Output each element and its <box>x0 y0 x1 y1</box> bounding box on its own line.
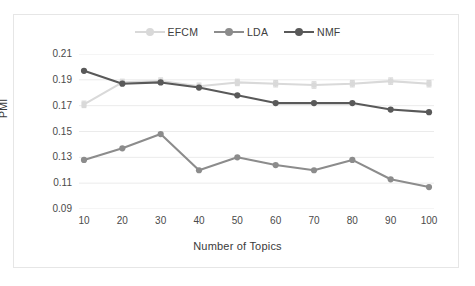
data-point-efcm[interactable] <box>388 79 393 84</box>
data-point-efcm[interactable] <box>81 102 86 107</box>
x-tick-label: 80 <box>337 216 367 226</box>
x-axis-title: Number of Topics <box>0 240 475 252</box>
x-tick-label: 30 <box>146 216 176 226</box>
data-point-lda[interactable] <box>234 154 240 160</box>
y-axis-title: PMI <box>0 98 9 118</box>
x-tick-label: 10 <box>69 216 99 226</box>
y-tick-label: 0.19 <box>38 75 72 85</box>
data-point-lda[interactable] <box>311 167 317 173</box>
series-line-lda <box>84 134 429 187</box>
y-tick-label: 0.11 <box>38 178 72 188</box>
x-tick-label: 100 <box>414 216 444 226</box>
data-point-nmf[interactable] <box>426 109 432 115</box>
data-point-nmf[interactable] <box>158 79 164 85</box>
x-tick-label: 40 <box>184 216 214 226</box>
x-tick-label: 20 <box>107 216 137 226</box>
data-point-nmf[interactable] <box>196 84 202 90</box>
data-point-nmf[interactable] <box>234 92 240 98</box>
y-tick-label: 0.15 <box>38 127 72 137</box>
data-point-nmf[interactable] <box>349 100 355 106</box>
data-point-lda[interactable] <box>81 157 87 163</box>
data-point-nmf[interactable] <box>81 68 87 74</box>
x-tick-label: 50 <box>222 216 252 226</box>
data-point-nmf[interactable] <box>273 100 279 106</box>
data-point-nmf[interactable] <box>119 81 125 87</box>
data-point-lda[interactable] <box>119 145 125 151</box>
data-point-lda[interactable] <box>158 131 164 137</box>
data-point-nmf[interactable] <box>388 106 394 112</box>
series-line-efcm <box>84 81 429 104</box>
data-point-efcm[interactable] <box>426 81 431 86</box>
data-point-efcm[interactable] <box>273 81 278 86</box>
pmi-line-chart: EFCM LDA NMF PMI 0.210.190.170.150.130.1… <box>0 0 475 286</box>
y-tick-label: 0.09 <box>38 204 72 214</box>
x-tick-label: 90 <box>376 216 406 226</box>
data-point-lda[interactable] <box>273 162 279 168</box>
data-point-lda[interactable] <box>196 167 202 173</box>
y-tick-label: 0.13 <box>38 152 72 162</box>
data-point-lda[interactable] <box>426 184 432 190</box>
data-point-lda[interactable] <box>388 176 394 182</box>
data-point-efcm[interactable] <box>235 80 240 85</box>
plot-svg <box>79 54 434 209</box>
y-tick-label: 0.21 <box>38 49 72 59</box>
plot-area <box>79 54 434 209</box>
data-point-nmf[interactable] <box>311 100 317 106</box>
x-tick-label: 70 <box>299 216 329 226</box>
data-point-lda[interactable] <box>349 157 355 163</box>
data-point-efcm[interactable] <box>350 81 355 86</box>
x-tick-label: 60 <box>261 216 291 226</box>
data-point-efcm[interactable] <box>311 82 316 87</box>
y-tick-label: 0.17 <box>38 101 72 111</box>
